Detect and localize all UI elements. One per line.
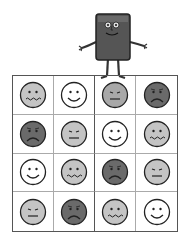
happy-face-icon: [60, 81, 88, 109]
sick-face-icon: [101, 198, 129, 226]
grid-cell: [13, 76, 54, 115]
sick-face-icon: [19, 81, 47, 109]
grid-cell: [54, 76, 95, 115]
happy-face-icon: [143, 198, 171, 226]
grid-cell: [54, 192, 95, 231]
mascot-character: [78, 8, 148, 80]
emotion-grid: [12, 75, 178, 232]
sick-face-icon: [60, 158, 88, 186]
grid-cell: [13, 192, 54, 231]
sick-face-icon: [143, 120, 171, 148]
grid-cell: [13, 115, 54, 154]
happy-face-icon: [19, 158, 47, 186]
grid-cell: [54, 154, 95, 193]
grid-cell: [95, 76, 136, 115]
grid-cell: [95, 192, 136, 231]
grid-cell: [136, 192, 177, 231]
grid-cell: [54, 115, 95, 154]
grid-cell: [95, 154, 136, 193]
grid-cell: [13, 154, 54, 193]
sad-face-icon: [19, 120, 47, 148]
happy-face-icon: [101, 120, 129, 148]
neutral-face-icon: [101, 81, 129, 109]
neutral-face-icon: [143, 158, 171, 186]
sad-face-icon: [60, 198, 88, 226]
sad-face-icon: [101, 158, 129, 186]
neutral-face-icon: [60, 120, 88, 148]
grid-cell: [136, 154, 177, 193]
grid-cell: [136, 115, 177, 154]
grid-cell: [136, 76, 177, 115]
sad-face-icon: [143, 81, 171, 109]
neutral-face-icon: [19, 198, 47, 226]
grid-cell: [95, 115, 136, 154]
